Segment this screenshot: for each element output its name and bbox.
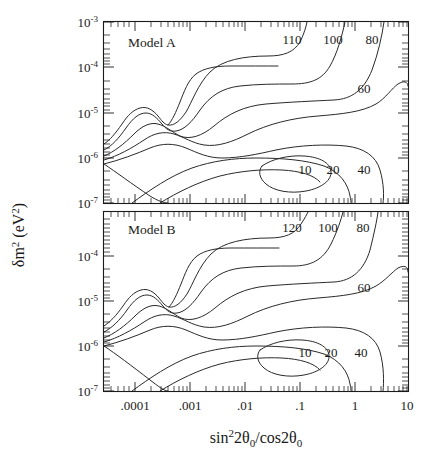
panel-model-a: 10-3 10-4 10-5 10-6 10-7 Model A 110 100… <box>78 14 409 211</box>
panel-a-y-ticks-right <box>398 22 408 203</box>
contour-label-10-a: 10 <box>299 162 312 177</box>
contour-label-80-a: 80 <box>366 32 379 47</box>
x-tick-label-01: .01 <box>237 398 253 413</box>
contour-label-20-a: 20 <box>327 162 340 177</box>
y-tick-label-b-1e-7: 10-7 <box>78 383 99 399</box>
panel-b-contours <box>104 212 408 391</box>
y-axis-title: δm2 (eV2) <box>9 203 28 267</box>
contour-label-110-a: 110 <box>282 32 301 47</box>
contour-label-100-b: 100 <box>318 220 338 235</box>
contour-label-100-a: 100 <box>323 32 343 47</box>
x-axis-tick-labels: .0001 .001 .01 .1 1 10 <box>120 398 413 413</box>
contour-label-40-b: 40 <box>355 345 368 360</box>
contour-label-80-b: 80 <box>357 220 370 235</box>
svg-text:sin22θ0/cos2θ0: sin22θ0/cos2θ0 <box>210 427 303 449</box>
contour-level-10 <box>260 156 331 192</box>
x-tick-label-one: 1 <box>352 398 359 413</box>
contour-level-40 <box>104 144 384 203</box>
contour-level-110-upper-hook <box>168 66 278 125</box>
contour-level-120-upper-hook <box>169 248 279 307</box>
contour-label-20-b: 20 <box>325 345 338 360</box>
x-tick-label-0001: .0001 <box>120 398 149 413</box>
y-tick-label-1e-4: 10-4 <box>78 59 99 75</box>
x-axis-title: sin22θ0/cos2θ0 <box>210 427 303 449</box>
panel-model-b: 10-4 10-5 10-6 10-7 Model B 120 100 80 6… <box>78 212 409 400</box>
panel-a-y-tick-labels: 10-3 10-4 10-5 10-6 10-7 <box>78 14 99 211</box>
panel-b-y-tick-labels: 10-4 10-5 10-6 10-7 <box>78 248 99 399</box>
y-axis-title-open: (eV <box>10 213 28 241</box>
contour-level-40-lower <box>104 164 168 203</box>
svg-text:δm2 (eV2): δm2 (eV2) <box>9 203 28 267</box>
panel-a-top-ticks <box>111 22 407 31</box>
y-tick-label-b-1e-4: 10-4 <box>78 248 99 264</box>
contour-level-40-lower-b <box>104 346 168 391</box>
y-tick-label-b-1e-5: 10-5 <box>78 293 99 309</box>
panel-title-model-a: Model A <box>128 35 176 50</box>
contour-label-40-a: 40 <box>358 162 371 177</box>
contour-level-20-inner <box>160 170 320 203</box>
panel-a-y-ticks-left <box>104 22 114 203</box>
y-axis-title-close: ) <box>10 203 28 208</box>
panel-title-model-b: Model B <box>128 222 176 237</box>
x-axis-title-cos: cos2θ <box>260 429 297 446</box>
contour-label-60-b: 60 <box>358 280 371 295</box>
y-tick-label-b-1e-6: 10-6 <box>78 338 99 354</box>
x-axis-title-cos-subscript: 0 <box>297 437 303 449</box>
x-axis-title-two-theta: 2θ <box>234 429 250 446</box>
panel-b-y-ticks-right <box>398 219 408 391</box>
contour-label-60-a: 60 <box>358 81 371 96</box>
x-axis-title-sin: sin <box>210 429 229 446</box>
panel-b-y-ticks-left <box>104 219 114 391</box>
y-tick-label-1e-6: 10-6 <box>78 150 99 166</box>
contour-level-20-inner-b <box>160 358 320 391</box>
y-tick-label-1e-7: 10-7 <box>78 195 99 211</box>
panel-a-x-ticks <box>111 194 407 203</box>
x-tick-label-001: .001 <box>179 398 202 413</box>
y-tick-label-1e-3: 10-3 <box>78 14 99 30</box>
contour-figure: δm2 (eV2) <box>0 0 426 460</box>
contour-label-120-b: 120 <box>282 220 302 235</box>
y-axis-title-delta-m: δm <box>10 247 27 268</box>
x-tick-label-ten: 10 <box>401 398 414 413</box>
y-tick-label-1e-5: 10-5 <box>78 105 99 121</box>
panel-b-x-ticks <box>111 382 407 391</box>
contour-label-10-b: 10 <box>299 345 312 360</box>
x-tick-label-1: .1 <box>295 398 305 413</box>
